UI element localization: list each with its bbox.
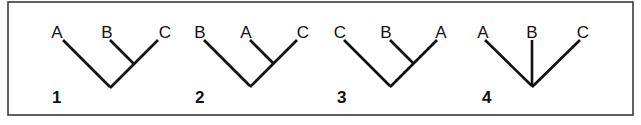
branch-b: [204, 40, 250, 86]
taxon-label-b: B: [380, 23, 391, 42]
tree-number-3: 3: [337, 88, 346, 107]
taxon-label-a: A: [240, 23, 252, 42]
taxon-label-b: B: [526, 23, 537, 42]
taxon-label-a: A: [435, 23, 447, 42]
taxon-label-a: A: [477, 23, 489, 42]
branch-c: [532, 40, 580, 87]
taxon-label-b: B: [194, 23, 205, 42]
figure-frame: [8, 2, 633, 115]
tree-number-4: 4: [482, 88, 492, 107]
taxon-label-c: C: [334, 23, 346, 42]
tree-1: A B C 1: [51, 23, 171, 107]
branch-b: [390, 40, 413, 63]
taxon-label-c: C: [297, 23, 309, 42]
taxon-label-a: A: [51, 23, 63, 42]
branch-a: [485, 40, 532, 86]
tree-number-2: 2: [195, 88, 204, 107]
taxon-label-c: C: [577, 23, 589, 42]
branch-c: [344, 40, 390, 86]
branch-a: [250, 40, 273, 63]
taxon-label-c: C: [159, 23, 171, 42]
tree-4: A B C 4: [477, 23, 589, 107]
tree-3: C B A 3: [334, 23, 447, 107]
phylogenetic-trees-diagram: A B C 1 B A C 2 C B A 3 A B C 4: [0, 0, 641, 125]
branch-a: [63, 40, 110, 87]
branch-b: [110, 40, 134, 64]
tree-number-1: 1: [52, 88, 61, 107]
tree-2: B A C 2: [194, 23, 309, 107]
